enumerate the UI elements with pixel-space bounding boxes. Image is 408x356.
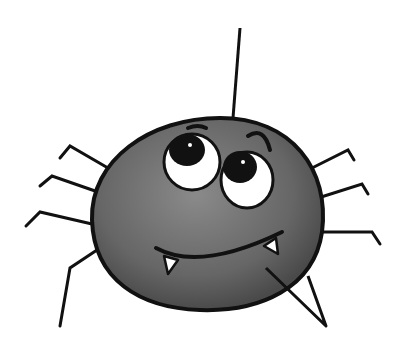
right-eye bbox=[221, 151, 273, 208]
left-eyebrow-icon bbox=[188, 126, 206, 128]
web-thread bbox=[233, 28, 240, 118]
spider-illustration bbox=[0, 0, 408, 356]
spider-drawing bbox=[0, 0, 408, 356]
left-eye bbox=[164, 134, 220, 190]
